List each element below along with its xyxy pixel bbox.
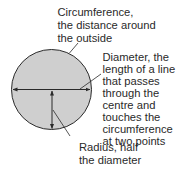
radius-label-line: Radius, half (79, 141, 139, 153)
diameter-label-line: that passes (103, 75, 161, 87)
diameter-label-line: through the (103, 87, 160, 99)
circumference-label-line: Circumference, (58, 6, 134, 18)
circumference-label-line: the outside (58, 32, 113, 44)
diameter-label-line: circumference (103, 123, 173, 135)
radius-label: Radius, half the diameter (79, 141, 141, 166)
diameter-label-line: touches the (103, 111, 161, 123)
diameter-label-line: length of a line (103, 63, 176, 75)
circumference-label: Circumference, the distance around the o… (58, 6, 159, 44)
circumference-label-line: the distance around (58, 19, 156, 31)
radius-label-line: the diameter (79, 154, 141, 166)
diameter-label-line: Diameter, the (103, 51, 170, 63)
circle-diagram: Circumference, the distance around the o… (0, 0, 178, 170)
diameter-label-line: centre and (103, 99, 156, 111)
circumference-leader-line (70, 43, 79, 53)
diameter-label: Diameter, the length of a line that pass… (103, 51, 179, 147)
